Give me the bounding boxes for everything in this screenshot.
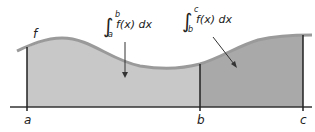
region-b-to-c xyxy=(200,35,303,107)
integrand: f(x) dx xyxy=(196,13,232,26)
axis-label-a: a xyxy=(24,113,31,127)
axis-label-b: b xyxy=(197,113,205,127)
region-a-to-b xyxy=(27,38,200,107)
integral-lower-limit: a xyxy=(108,30,113,39)
integrand: f(x) dx xyxy=(116,18,152,31)
integral-b-to-c: ∫ c b f(x) dx xyxy=(182,5,232,34)
integral-a-to-b: ∫ b a f(x) dx xyxy=(103,10,152,39)
function-label: f xyxy=(33,27,39,41)
axis-label-c: c xyxy=(300,113,307,127)
integral-additivity-diagram: f a b c ∫ b a f(x) dx ∫ c b f(x) dx xyxy=(0,0,315,132)
integral-lower-limit: b xyxy=(188,25,193,34)
